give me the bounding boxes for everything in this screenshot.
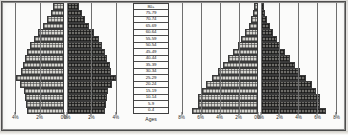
axis-tick-label: 2%	[88, 114, 94, 122]
ages-axis-label: Ages	[133, 114, 169, 129]
axis-tick-label: 8%	[178, 114, 184, 122]
axis-tick-label: 2%	[235, 114, 241, 122]
ages-table: 80+75-7970-7465-6960-6455-5950-5445-4940…	[133, 3, 169, 114]
chart-panel-right: 8%6%4%2%0%0%2%4%6%8%	[174, 3, 344, 131]
axis-tick-label: 2%	[276, 114, 282, 122]
bar-rows-right	[67, 3, 128, 114]
scan-edge-artifact	[0, 131, 348, 135]
axis-tick-label: 4%	[12, 114, 18, 122]
axis-tick-label: 6%	[197, 114, 203, 122]
chart-panel-left: 4%2%0%0%2%4%	[3, 3, 128, 131]
gridline	[261, 3, 262, 114]
gridline	[91, 3, 92, 114]
axis-tick-label: 8%	[333, 114, 339, 122]
gridline	[336, 3, 337, 114]
bar-rows-right	[261, 3, 345, 114]
axis-tick-label: 4%	[113, 114, 119, 122]
axis-tick-label: 6%	[314, 114, 320, 122]
axis-tick-label: 4%	[216, 114, 222, 122]
gridline	[279, 3, 280, 114]
plot-half-left	[174, 3, 258, 114]
bar-rows-left	[174, 3, 258, 114]
gridline	[317, 3, 318, 114]
gridline	[239, 3, 240, 114]
gridline	[15, 3, 16, 114]
plot-area-left	[3, 3, 128, 114]
axis-tick-label: 0%	[257, 114, 263, 122]
plot-area-right	[174, 3, 344, 114]
gridline	[298, 3, 299, 114]
gridline	[182, 3, 183, 114]
x-axis-left-panel: 4%2%0%0%2%4%	[3, 114, 128, 128]
gridline	[201, 3, 202, 114]
x-axis-right-panel: 8%6%4%2%0%0%2%4%6%8%	[174, 114, 344, 128]
plot-half-right	[67, 3, 128, 114]
bar-rows-left	[3, 3, 64, 114]
age-group-cell: 0-4	[134, 108, 168, 113]
axis-tick-label: 2%	[36, 114, 42, 122]
axis-tick-label: 4%	[295, 114, 301, 122]
plot-half-left	[3, 3, 64, 114]
ages-header-text: Ages	[144, 115, 157, 123]
plot-half-right	[261, 3, 345, 114]
axis-tick-label: 0%	[64, 114, 70, 122]
gridline	[116, 3, 117, 114]
gridline	[220, 3, 221, 114]
gridline	[40, 3, 41, 114]
population-pyramid-figure: 4%2%0%0%2%4% 80+75-7970-7465-6960-6455-5…	[0, 0, 348, 135]
gridline	[67, 3, 68, 114]
ages-column-panel: 80+75-7970-7465-6960-6455-5950-5445-4940…	[129, 3, 173, 131]
